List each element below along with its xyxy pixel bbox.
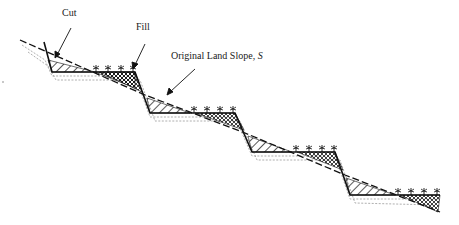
stray-mark [2,81,3,82]
slope-label-text: Original Land Slope, [171,50,258,61]
slope-symbol: S [258,50,263,61]
slope-label: Original Land Slope, S [171,50,263,61]
leader-arrows [55,28,195,95]
cut-area [346,178,395,195]
terrace-3 [248,136,343,170]
terrace-diagram: Cut Fill Original Land Slope, S [0,0,459,225]
fill-label: Fill [136,21,150,32]
fill-area [400,195,440,212]
cut-label: Cut [62,7,77,18]
cut-area [147,98,190,113]
plants [93,65,440,195]
terrace-profile [44,42,440,195]
original-land-slope [20,40,440,212]
